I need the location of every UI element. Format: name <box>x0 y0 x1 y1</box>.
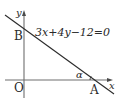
coordinate-diagram: y B 3x+4y−12=0 O A x α <box>0 0 124 112</box>
y-axis-label: y <box>16 8 22 18</box>
point-b-label: B <box>14 30 23 42</box>
origin-label: O <box>14 82 24 94</box>
angle-alpha-label: α <box>76 70 83 80</box>
y-axis-arrow-icon <box>22 10 26 16</box>
x-axis-label: x <box>109 81 115 91</box>
point-a-label: A <box>90 84 99 96</box>
equation-label: 3x+4y−12=0 <box>35 27 110 38</box>
